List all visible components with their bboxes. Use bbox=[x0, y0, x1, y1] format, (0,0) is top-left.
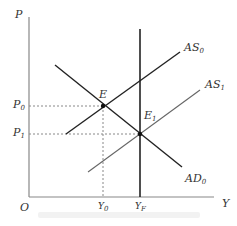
ad0-curve bbox=[55, 65, 182, 167]
as1-label: AS1 bbox=[205, 79, 225, 92]
point-e-label: E bbox=[99, 89, 107, 100]
diagram-canvas bbox=[0, 0, 237, 226]
as0-label: AS0 bbox=[184, 42, 204, 55]
ad0-label: AD0 bbox=[185, 173, 206, 186]
x-axis-label: Y bbox=[222, 198, 229, 209]
as1-curve bbox=[88, 90, 200, 172]
point-e bbox=[101, 104, 105, 108]
p1-label: P1 bbox=[13, 127, 25, 140]
point-e1 bbox=[138, 132, 142, 136]
y-axis-label: P bbox=[15, 9, 22, 20]
caption-placeholder bbox=[38, 212, 200, 218]
p0-label: P0 bbox=[13, 99, 25, 112]
point-e1-label: E1 bbox=[144, 110, 157, 123]
origin-label: O bbox=[20, 202, 29, 213]
as-ad-diagram: P Y O P0 P1 Y0 YF E E1 AS0 AS1 AD0 bbox=[0, 0, 237, 226]
as0-curve bbox=[66, 52, 180, 134]
